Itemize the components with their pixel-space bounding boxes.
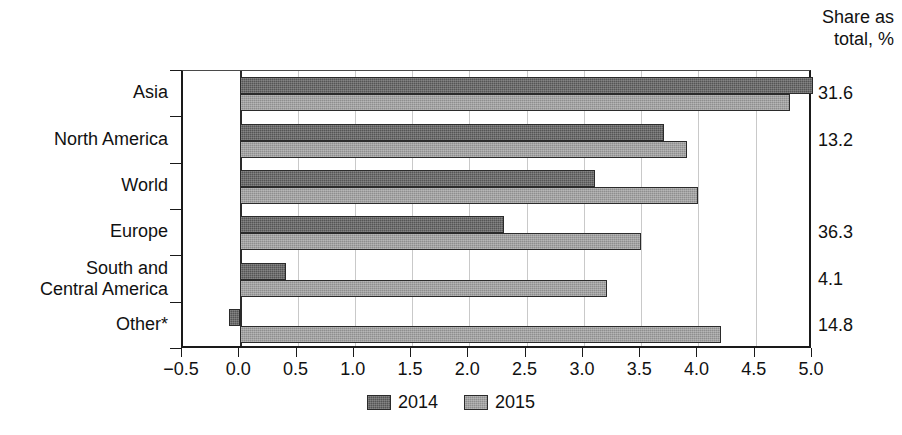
y-axis-tick	[170, 255, 181, 256]
gridline	[756, 71, 757, 346]
x-axis-tick-label: 2.0	[435, 358, 499, 380]
bar-2015-other	[240, 326, 721, 343]
bar-2015-world	[240, 187, 698, 204]
chart-legend: 20142015	[0, 389, 902, 415]
bar-2015-europe	[240, 233, 641, 250]
bar-2014-europe	[240, 216, 503, 233]
share-value-north-america: 13.2	[818, 129, 902, 151]
bar-2014-asia	[240, 77, 813, 94]
share-value-asia: 31.6	[818, 82, 902, 104]
bar-2014-north-america	[240, 124, 664, 141]
share-as-total-header: Share as total, %	[774, 6, 894, 50]
x-axis-tick-label: −0.5	[149, 358, 213, 380]
x-axis-tick-labels: −0.50.00.51.01.52.02.53.03.54.04.55.0	[0, 358, 902, 382]
y-axis-tick	[170, 302, 181, 303]
zero-line	[240, 71, 242, 346]
x-axis-tick	[639, 348, 640, 357]
bar-2014-south-and-central-america	[240, 263, 286, 280]
x-axis-tick	[238, 348, 239, 357]
chart-figure: Share as total, % AsiaNorth AmericaWorld…	[0, 0, 902, 435]
x-axis-tick-label: 1.5	[378, 358, 442, 380]
bar-2014-world	[240, 170, 595, 187]
legend-item-2015: 2015	[464, 392, 535, 412]
x-axis-tick	[754, 348, 755, 357]
bar-2015-south-and-central-america	[240, 280, 607, 297]
x-axis-tick	[410, 348, 411, 357]
plot-area	[181, 70, 811, 348]
gridline	[469, 71, 470, 346]
bar-2014-other	[229, 309, 240, 326]
y-axis-tick	[170, 70, 181, 71]
legend-label-2015: 2015	[495, 392, 535, 412]
x-axis-tick-label: 4.5	[722, 358, 786, 380]
x-axis-ticks	[181, 348, 811, 357]
gridline	[355, 71, 356, 346]
y-axis-label-north-america: North America	[0, 129, 168, 150]
x-axis-tick-label: 5.0	[779, 358, 843, 380]
gridline	[698, 71, 699, 346]
y-axis-label-other: Other*	[0, 314, 168, 335]
x-axis-tick-label: 4.0	[664, 358, 728, 380]
y-axis-label-europe: Europe	[0, 221, 168, 242]
x-axis-tick	[696, 348, 697, 357]
x-axis-tick-label: 3.5	[607, 358, 671, 380]
y-axis-tick	[170, 163, 181, 164]
y-axis-category-labels: AsiaNorth AmericaWorldEuropeSouth and Ce…	[0, 70, 176, 348]
legend-label-2014: 2014	[398, 392, 438, 412]
bar-2015-north-america	[240, 141, 687, 158]
share-value-europe: 36.3	[818, 221, 902, 243]
y-axis-label-asia: Asia	[0, 82, 168, 103]
x-axis-tick-label: 0.0	[206, 358, 270, 380]
x-axis-tick	[296, 348, 297, 357]
x-axis-tick	[353, 348, 354, 357]
x-axis-tick	[582, 348, 583, 357]
x-axis-tick-label: 0.5	[264, 358, 328, 380]
x-axis-tick	[467, 348, 468, 357]
x-axis-tick	[181, 348, 182, 357]
share-value-south-and-central-america: 4.1	[818, 268, 902, 290]
x-axis-tick	[811, 348, 812, 357]
share-as-total-values: 31.613.236.34.114.8	[814, 70, 902, 348]
x-axis-tick	[525, 348, 526, 357]
y-axis-tick	[170, 209, 181, 210]
y-axis-label-south-and-central-america: South and Central America	[0, 258, 168, 300]
y-axis-tick	[170, 116, 181, 117]
x-axis-tick-label: 1.0	[321, 358, 385, 380]
x-axis-tick-label: 3.0	[550, 358, 614, 380]
legend-swatch-2015	[464, 395, 488, 410]
share-value-other: 14.8	[818, 314, 902, 336]
legend-item-2014: 2014	[367, 392, 438, 412]
y-axis-tick	[170, 348, 181, 349]
gridline	[412, 71, 413, 346]
bar-2015-asia	[240, 94, 790, 111]
gridline	[527, 71, 528, 346]
legend-swatch-2014	[367, 395, 391, 410]
y-axis-label-world: World	[0, 175, 168, 196]
gridline	[298, 71, 299, 346]
gridline	[641, 71, 642, 346]
gridline	[584, 71, 585, 346]
x-axis-tick-label: 2.5	[493, 358, 557, 380]
